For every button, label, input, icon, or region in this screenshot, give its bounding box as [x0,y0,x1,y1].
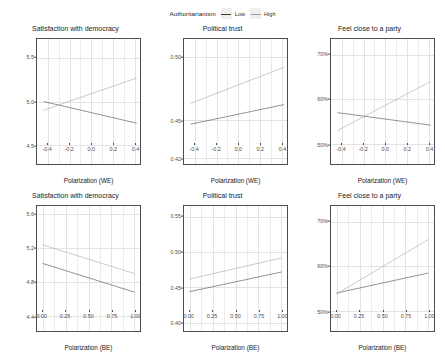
x-tick-label: 0.00 [183,313,194,319]
x-tick-mark [216,143,217,145]
x-tick-mark [429,310,430,312]
facet-panel: Political trust0.400.450.500.550.000.250… [149,191,296,358]
x-tick-mark [259,310,260,312]
x-tick-label: 0.4 [132,146,140,152]
x-tick-label: 1.00 [424,313,435,319]
x-tick-mark [260,143,261,145]
facet-panel: Feel close to a party50%60%70%0.000.250.… [296,191,443,358]
x-tick-mark [135,143,136,145]
legend-item-high: High [250,8,276,19]
y-tick-mark [181,120,183,121]
x-tick-mark [194,143,195,145]
legend-label-low: Low [235,11,245,17]
x-axis-label: Polarization (BE) [183,344,288,351]
y-tick-label: 0.40 [171,320,182,326]
y-tick-label: 50% [317,142,328,148]
y-tick-label: 50% [317,309,328,315]
y-tick-mark [328,53,330,54]
x-tick-mark [383,310,384,312]
x-tick-label: 0.25 [60,313,71,319]
y-tick-label: 0.50 [171,249,182,255]
x-tick-mark [407,143,408,145]
x-axis-label: Polarization (BE) [330,344,435,351]
y-tick-mark [34,101,36,102]
legend-item-low: Low [221,8,245,19]
plot-wrap: 0.420.450.50-0.4-0.20.00.20.4Polarizatio… [149,36,296,191]
y-tick-mark [328,99,330,100]
x-axis-label: Polarization (BE) [36,344,141,351]
x-tick-label: 0.00 [330,313,341,319]
x-axis: -0.4-0.20.00.20.4 [36,143,141,165]
x-axis: -0.4-0.20.00.20.4 [330,143,435,165]
x-tick-label: 0.25 [354,313,365,319]
legend-label-high: High [264,11,276,17]
x-tick-mark [69,143,70,145]
y-tick-mark [328,266,330,267]
x-tick-mark [336,310,337,312]
x-tick-label: -0.4 [42,146,51,152]
x-tick-mark [47,143,48,145]
plot-wrap: 4.55.05.5-0.4-0.20.00.20.4Polarization (… [2,36,149,191]
figure-root: Authoritarianism Low High Satisfaction w… [0,0,445,360]
x-tick-label: 0.4 [279,146,287,152]
y-tick-label: 4.5 [27,143,35,149]
y-tick-mark [34,57,36,58]
x-tick-label: 0.75 [254,313,265,319]
legend-key-low-icon [221,8,232,19]
plot-wrap: 0.400.450.500.550.000.250.500.751.00Pola… [149,203,296,358]
y-tick-label: 5.2 [27,245,35,251]
x-tick-label: 0.75 [107,313,118,319]
x-axis: 0.000.250.500.751.00 [183,310,288,332]
panel-title: Feel close to a party [296,192,443,199]
x-tick-mark [135,310,136,312]
y-tick-label: 60% [317,263,328,269]
y-tick-mark [181,56,183,57]
x-tick-label: 0.50 [230,313,241,319]
panel-title: Satisfaction with democracy [2,192,149,199]
y-tick-label: 70% [317,218,328,224]
x-tick-mark [385,143,386,145]
y-tick-label: 0.45 [171,285,182,291]
x-tick-mark [363,143,364,145]
y-tick-mark [181,287,183,288]
facet-panel: Feel close to a party50%60%70%-0.4-0.20.… [296,24,443,191]
x-tick-label: -0.4 [336,146,345,152]
panel-title: Political trust [149,192,296,199]
facet-panel: Satisfaction with democracy4.55.05.5-0.4… [2,24,149,191]
x-tick-label: 0.4 [426,146,434,152]
x-tick-mark [282,143,283,145]
y-tick-label: 5.6 [27,211,35,217]
facet-panel: Political trust0.420.450.50-0.4-0.20.00.… [149,24,296,191]
x-tick-label: -0.2 [212,146,221,152]
y-tick-mark [328,220,330,221]
y-tick-label: 4.4 [27,314,35,320]
legend-key-high-icon [250,8,261,19]
x-tick-label: -0.2 [359,146,368,152]
x-tick-label: 0.50 [377,313,388,319]
x-tick-mark [91,143,92,145]
x-tick-label: 1.00 [277,313,288,319]
x-tick-label: 0.0 [382,146,390,152]
x-tick-mark [238,143,239,145]
x-tick-mark [189,310,190,312]
x-tick-label: 0.50 [83,313,94,319]
x-tick-mark [113,143,114,145]
x-tick-mark [429,143,430,145]
plot-wrap: 50%60%70%-0.4-0.20.00.20.4Polarization (… [296,36,443,191]
x-tick-mark [89,310,90,312]
y-tick-label: 4.8 [27,279,35,285]
x-axis-label: Polarization (WE) [330,177,435,184]
y-tick-label: 0.45 [171,118,182,124]
x-tick-mark [406,310,407,312]
x-axis: -0.4-0.20.00.20.4 [183,143,288,165]
x-tick-mark [212,310,213,312]
panel-title: Satisfaction with democracy [2,25,149,32]
x-tick-label: 1.00 [130,313,141,319]
x-axis: 0.000.250.500.751.00 [330,310,435,332]
x-tick-label: 0.2 [404,146,412,152]
x-tick-mark [236,310,237,312]
facet-panel: Satisfaction with democracy4.44.85.25.60… [2,191,149,358]
x-tick-label: -0.4 [189,146,198,152]
x-axis: 0.000.250.500.751.00 [36,310,141,332]
x-tick-label: 0.0 [235,146,243,152]
